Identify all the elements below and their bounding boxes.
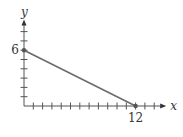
- x-tick-label-12: 12: [128, 111, 143, 125]
- y-axis-arrow-icon: [22, 20, 27, 26]
- chart: x y 12 6: [0, 0, 183, 137]
- x-axis-arrow-icon: [160, 104, 166, 109]
- y-tick-label-6: 6: [11, 43, 19, 57]
- y-axis-label: y: [20, 5, 28, 19]
- series-line-0: [24, 50, 136, 106]
- data-point-0: [22, 48, 26, 52]
- x-axis-label: x: [170, 99, 177, 113]
- data-point-1: [133, 104, 137, 108]
- series-layer: [22, 48, 138, 108]
